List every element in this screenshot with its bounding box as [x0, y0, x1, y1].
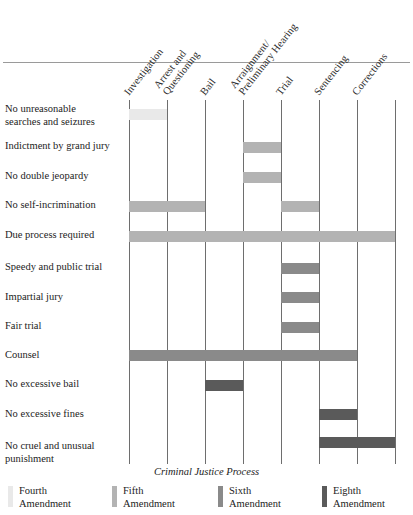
row-label: No excessive bail: [5, 378, 125, 391]
plot-area: [129, 100, 394, 464]
row-label: Fair trial: [5, 320, 125, 333]
row-label: No cruel and unusualpunishment: [5, 440, 125, 465]
bar-segment: [319, 409, 357, 420]
bar-segment: [281, 201, 319, 212]
gridline: [357, 100, 358, 464]
bar-segment: [243, 142, 281, 153]
legend-label: EighthAmendment: [333, 484, 385, 510]
bar-segment: [129, 201, 205, 212]
bar-segment: [319, 437, 395, 448]
eighth-amendment-swatch: [322, 486, 327, 507]
row-label: Counsel: [5, 349, 125, 362]
x-axis-caption: Criminal Justice Process: [0, 466, 413, 477]
gridline: [167, 100, 168, 464]
legend-label: FourthAmendment: [19, 484, 71, 510]
row-label: No unreasonablesearches and seizures: [5, 103, 125, 128]
row-label: No double jeopardy: [5, 170, 125, 183]
row-label-line: No excessive bail: [5, 378, 125, 391]
sixth-amendment-swatch: [218, 486, 223, 507]
row-label: Speedy and public trial: [5, 261, 125, 274]
row-label-line: Counsel: [5, 349, 125, 362]
gridline: [395, 100, 396, 464]
legend-label-line1: Sixth: [229, 484, 281, 497]
column-header-line: Bail: [198, 76, 218, 97]
criminal-justice-rights-chart: InvestigationArrest andQuestioningBailAr…: [0, 0, 413, 515]
row-label-line: No cruel and unusual: [5, 440, 125, 453]
row-label-line: searches and seizures: [5, 116, 125, 129]
row-label-line: Indictment by grand jury: [5, 140, 125, 153]
legend-label: FifthAmendment: [123, 484, 175, 510]
row-label-line: Fair trial: [5, 320, 125, 333]
legend-label: SixthAmendment: [229, 484, 281, 510]
column-header-line: Corrections: [350, 51, 390, 98]
column-header-5: Sentencing: [312, 53, 350, 98]
row-label-line: No excessive fines: [5, 408, 125, 421]
legend: FourthAmendmentFifthAmendmentSixthAmendm…: [2, 484, 411, 512]
column-header-6: Corrections: [350, 51, 390, 98]
gridline: [205, 100, 206, 464]
gridline: [281, 100, 282, 464]
column-header-4: Trial: [274, 74, 296, 97]
column-header-line: Trial: [274, 74, 296, 97]
legend-label-line2: Amendment: [229, 497, 281, 510]
row-label-line: Due process required: [5, 229, 125, 242]
bar-segment: [281, 322, 319, 333]
row-label: Due process required: [5, 229, 125, 242]
row-label: Impartial jury: [5, 291, 125, 304]
row-label-line: No self-incrimination: [5, 199, 125, 212]
legend-label-line1: Fifth: [123, 484, 175, 497]
legend-label-line2: Amendment: [333, 497, 385, 510]
row-label: No self-incrimination: [5, 199, 125, 212]
gridline: [243, 100, 244, 464]
row-label: Indictment by grand jury: [5, 140, 125, 153]
bar-segment: [281, 263, 319, 274]
row-label-line: Speedy and public trial: [5, 261, 125, 274]
legend-label-line2: Amendment: [123, 497, 175, 510]
bar-segment: [281, 292, 319, 303]
bar-segment: [129, 231, 395, 242]
legend-label-line1: Fourth: [19, 484, 71, 497]
row-label-line: No unreasonable: [5, 103, 125, 116]
row-label-line: punishment: [5, 453, 125, 466]
fourth-amendment-swatch: [8, 486, 13, 507]
legend-label-line1: Eighth: [333, 484, 385, 497]
bar-segment: [205, 380, 243, 391]
gridline: [129, 100, 130, 464]
row-label-line: No double jeopardy: [5, 170, 125, 183]
bar-segment: [243, 172, 281, 183]
column-header-2: Bail: [198, 76, 218, 97]
header-rule: [3, 62, 410, 63]
column-header-line: Sentencing: [312, 53, 350, 98]
bar-segment: [129, 350, 357, 361]
legend-label-line2: Amendment: [19, 497, 71, 510]
row-label-line: Impartial jury: [5, 291, 125, 304]
bar-segment: [129, 109, 167, 120]
row-label: No excessive fines: [5, 408, 125, 421]
fifth-amendment-swatch: [112, 486, 117, 507]
